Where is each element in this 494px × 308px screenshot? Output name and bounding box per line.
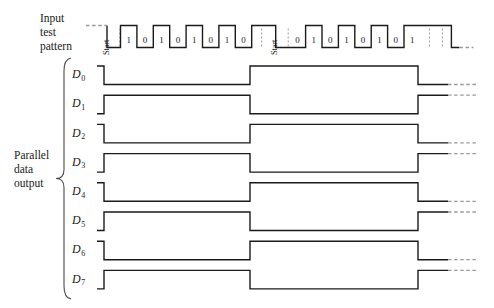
waveform-d4 — [97, 183, 448, 202]
parallel-output-curly-brace — [56, 58, 71, 299]
dashed-continuation-lines — [86, 26, 476, 271]
waveform-d0 — [97, 66, 448, 85]
waveform-d6 — [97, 241, 448, 260]
waveform-d3 — [97, 154, 448, 173]
waveform-canvas — [0, 0, 494, 308]
waveform-d5 — [97, 212, 448, 231]
waveform-d2 — [97, 124, 448, 142]
waveform-d1 — [97, 95, 448, 114]
timing-diagram-figure: Input test pattern Parallel data output … — [0, 0, 494, 308]
waveform-paths — [97, 26, 459, 289]
ellipsis-tick-marks — [120, 29, 443, 47]
input-test-pattern-waveform — [107, 26, 459, 48]
waveform-d7 — [97, 270, 448, 289]
